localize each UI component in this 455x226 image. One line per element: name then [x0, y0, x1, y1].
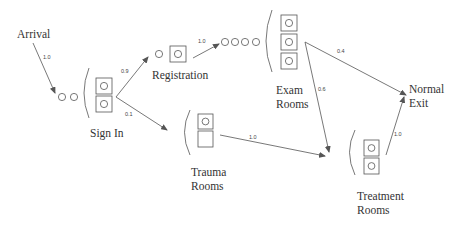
patient-flow-diagram: Arrival Sign In Registration Exam Rooms … — [0, 0, 455, 226]
edge-arrival-signin — [33, 43, 55, 93]
treatment-servers — [364, 140, 379, 174]
treatment-paren — [350, 130, 356, 175]
arrival-label: Arrival — [17, 27, 50, 41]
prob-signin-registration: 0.9 — [121, 68, 129, 74]
exam-label-line2: Rooms — [276, 97, 309, 111]
prob-exam-exit: 0.4 — [337, 48, 345, 54]
prob-registration-exam: 1.0 — [198, 38, 206, 44]
edge-treatment-exit — [386, 97, 404, 155]
registration-queue — [155, 50, 162, 57]
edge-signin-registration — [116, 57, 148, 97]
signin-paren — [84, 68, 89, 118]
trauma-paren — [185, 110, 191, 155]
registration-servers — [170, 46, 186, 62]
edge-trauma-treatment — [220, 135, 325, 156]
edge-signin-trauma — [116, 97, 167, 130]
normal-exit-label-line1: Normal — [409, 82, 444, 96]
edge-registration-exam — [193, 44, 219, 58]
trauma-label-line2: Rooms — [191, 179, 224, 193]
trauma-servers — [198, 114, 213, 147]
treatment-label-line1: Treatment — [357, 189, 404, 203]
exam-paren — [266, 10, 272, 72]
prob-signin-trauma: 0.1 — [125, 111, 133, 117]
prob-arrival-signin: 1.0 — [43, 54, 51, 60]
exam-queue — [221, 38, 259, 45]
exam-label-line1: Exam — [276, 83, 303, 97]
prob-treatment-exit: 1.0 — [394, 131, 402, 137]
treatment-label-line2: Rooms — [357, 203, 390, 217]
signin-label: Sign In — [90, 126, 124, 140]
prob-trauma-treatment: 1.0 — [249, 134, 257, 140]
trauma-label-line1: Trauma — [191, 165, 226, 179]
prob-exam-treatment: 0.6 — [318, 86, 326, 92]
normal-exit-label-line2: Exit — [409, 96, 428, 110]
exam-servers — [281, 15, 297, 69]
signin-queue — [58, 93, 77, 100]
signin-servers — [96, 78, 112, 112]
edge-exam-treatment — [305, 42, 329, 152]
registration-label: Registration — [152, 68, 208, 82]
